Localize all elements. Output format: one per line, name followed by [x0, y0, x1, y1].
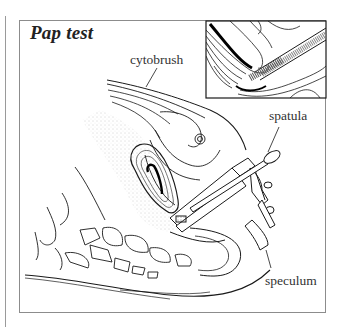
label-spatula: spatula [269, 108, 307, 124]
spatula-leader [268, 127, 279, 152]
cytobrush-leader [146, 68, 157, 87]
spatula-instrument [190, 148, 282, 212]
inset-view [206, 21, 326, 98]
label-speculum: speculum [265, 273, 317, 289]
speculum-instrument [170, 158, 275, 250]
label-cytobrush: cytobrush [130, 52, 183, 68]
figure-title: Pap test [30, 22, 93, 44]
speculum-leader [266, 250, 271, 268]
